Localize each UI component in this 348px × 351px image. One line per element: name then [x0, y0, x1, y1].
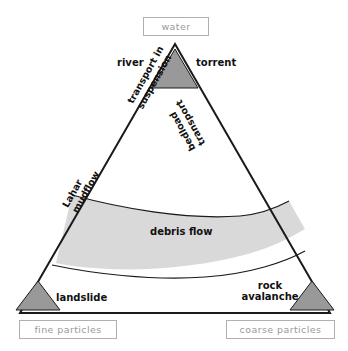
- corner-box-fine-particles-label: fine particles: [34, 324, 101, 335]
- label-rock-avalanche-line1: rock: [238, 280, 302, 291]
- label-river: river: [117, 57, 144, 68]
- corner-box-fine-particles: fine particles: [19, 320, 117, 339]
- diagram-root: water fine particles coarse particles ri…: [0, 0, 348, 351]
- label-torrent: torrent: [196, 57, 236, 68]
- corner-box-water: water: [143, 17, 209, 36]
- label-rock-avalanche: rock avalanche: [238, 280, 302, 302]
- label-debris-flow: debris flow: [150, 226, 212, 237]
- corner-box-water-label: water: [161, 21, 190, 32]
- corner-box-coarse-particles: coarse particles: [226, 320, 335, 339]
- label-landslide: landslide: [56, 292, 107, 303]
- label-rock-avalanche-line2: avalanche: [238, 291, 302, 302]
- corner-box-coarse-particles-label: coarse particles: [240, 324, 322, 335]
- bottom-left-corner-marker: [16, 281, 60, 310]
